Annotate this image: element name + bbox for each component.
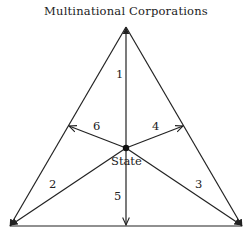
arrow-label-1: 1 <box>116 69 123 81</box>
arrow-label-6: 6 <box>93 121 100 133</box>
state-node <box>123 145 129 151</box>
triangle-diagram <box>0 0 252 237</box>
triangle-edge-right <box>126 27 242 226</box>
arrow-2 <box>11 148 126 225</box>
arrow-label-5: 5 <box>114 191 121 203</box>
state-label: State <box>111 156 142 168</box>
arrow-label-2: 2 <box>49 179 56 191</box>
arrow-3 <box>126 148 241 225</box>
arrow-label-3: 3 <box>195 179 202 191</box>
triangle-edge-left <box>10 27 126 226</box>
arrow-label-4: 4 <box>152 121 159 133</box>
